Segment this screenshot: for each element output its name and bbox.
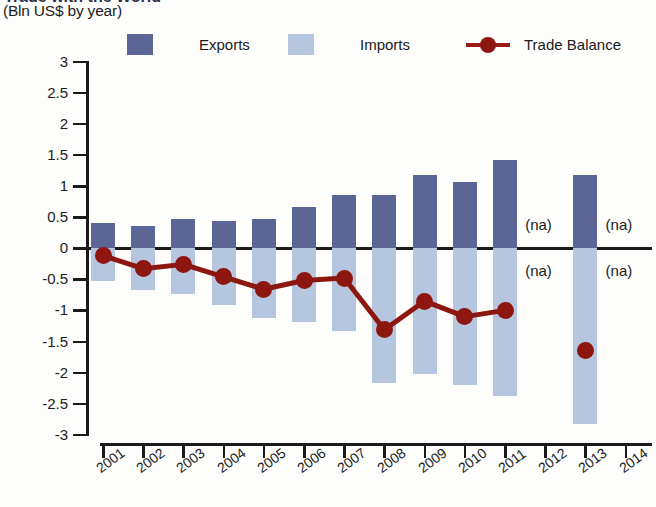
y-tick-label: -1	[8, 302, 68, 317]
y-tick-label: -0.5	[8, 271, 68, 286]
x-tick-label: 2001	[93, 445, 128, 476]
x-tick-label: 2006	[294, 445, 329, 476]
y-tick-label: -3	[8, 427, 68, 442]
trade-balance-point[interactable]	[497, 302, 514, 319]
bar-exports[interactable]	[212, 221, 236, 248]
y-tick-label: 2	[8, 116, 68, 131]
plot-area: 32.521.510.50-0.5-1-1.5-2-2.5-3 20012002…	[0, 0, 656, 507]
bar-exports[interactable]	[372, 195, 396, 248]
x-tick-label: 2013	[575, 445, 610, 476]
x-tick-label: 2010	[455, 445, 490, 476]
y-tick-label: -2.5	[8, 396, 68, 411]
na-label: (na)	[525, 216, 552, 233]
y-tick	[73, 403, 86, 406]
bar-exports[interactable]	[252, 219, 276, 248]
bar-exports[interactable]	[493, 160, 517, 248]
y-tick-label: 0	[8, 240, 68, 255]
y-tick	[73, 341, 86, 344]
bar-imports[interactable]	[573, 248, 597, 424]
trade-balance-point[interactable]	[95, 247, 112, 264]
na-label: (na)	[525, 262, 552, 279]
x-tick-label: 2007	[334, 445, 369, 476]
bar-exports[interactable]	[131, 226, 155, 248]
bar-exports[interactable]	[171, 219, 195, 248]
bar-exports[interactable]	[91, 223, 115, 248]
bar-exports[interactable]	[413, 175, 437, 248]
y-tick	[73, 185, 86, 188]
y-tick-label: 2.5	[8, 85, 68, 100]
y-tick-label: 0.5	[8, 209, 68, 224]
x-tick-label: 2002	[133, 445, 168, 476]
x-tick-label: 2012	[535, 445, 570, 476]
y-tick-label: 3	[8, 54, 68, 69]
na-label: (na)	[606, 262, 633, 279]
trade-balance-point[interactable]	[376, 321, 393, 338]
x-tick-label: 2005	[254, 445, 289, 476]
bar-exports[interactable]	[573, 175, 597, 248]
x-tick-label: 2014	[616, 445, 651, 476]
y-tick	[73, 216, 86, 219]
y-tick	[73, 154, 86, 157]
bar-imports[interactable]	[413, 248, 437, 374]
y-tick-label: 1	[8, 178, 68, 193]
x-tick-label: 2009	[415, 445, 450, 476]
trade-balance-point[interactable]	[296, 272, 313, 289]
trade-balance-point[interactable]	[416, 293, 433, 310]
y-tick	[73, 61, 86, 64]
x-tick-label: 2003	[173, 445, 208, 476]
y-tick-label: -1.5	[8, 334, 68, 349]
na-label: (na)	[606, 216, 633, 233]
x-tick-label: 2008	[374, 445, 409, 476]
trade-balance-point[interactable]	[135, 260, 152, 277]
x-tick-label: 2011	[495, 445, 529, 476]
bar-exports[interactable]	[332, 195, 356, 248]
bar-imports[interactable]	[493, 248, 517, 396]
y-tick	[73, 123, 86, 126]
trade-balance-point[interactable]	[336, 270, 353, 287]
chart-root: Trade with the World (Bln US$ by year) E…	[0, 0, 656, 507]
trade-balance-point[interactable]	[255, 281, 272, 298]
trade-balance-point[interactable]	[175, 256, 192, 273]
y-tick-label: -2	[8, 365, 68, 380]
bar-exports[interactable]	[453, 182, 477, 248]
y-tick	[73, 309, 86, 312]
bar-imports[interactable]	[372, 248, 396, 383]
bar-exports[interactable]	[292, 207, 316, 248]
y-tick	[73, 434, 86, 437]
y-tick	[73, 278, 86, 281]
y-tick	[73, 372, 86, 375]
x-tick-label: 2004	[214, 445, 249, 476]
y-tick	[73, 247, 86, 250]
y-tick-label: 1.5	[8, 147, 68, 162]
y-tick	[73, 92, 86, 95]
bar-imports[interactable]	[332, 248, 356, 331]
